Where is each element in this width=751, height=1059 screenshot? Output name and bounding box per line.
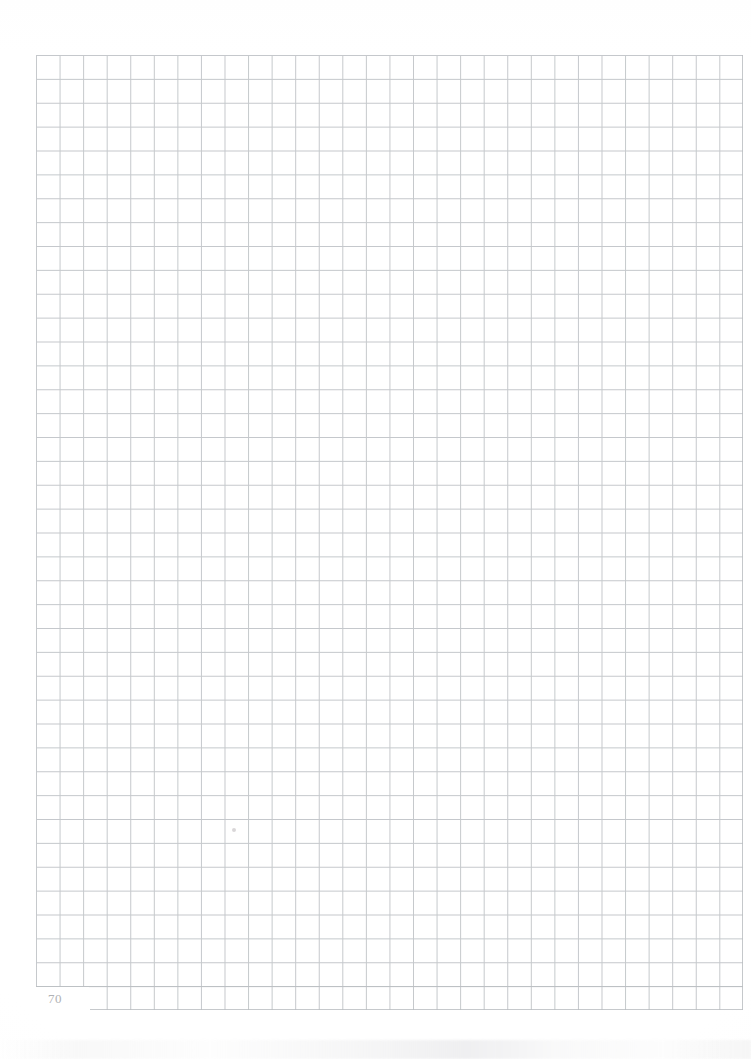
- page-number: 70: [48, 991, 62, 1007]
- grid-penultimate-rule: [36, 986, 743, 987]
- pencil-mark-artifact: [232, 828, 236, 832]
- scanned-page: 70: [0, 0, 751, 1059]
- grid-bottom-rule: [90, 1009, 743, 1010]
- scan-noise-artifact: [0, 1040, 751, 1059]
- grid-right-rule: [742, 55, 743, 1010]
- graph-paper-grid: [36, 55, 743, 1010]
- scan-band-top: [0, 0, 751, 52]
